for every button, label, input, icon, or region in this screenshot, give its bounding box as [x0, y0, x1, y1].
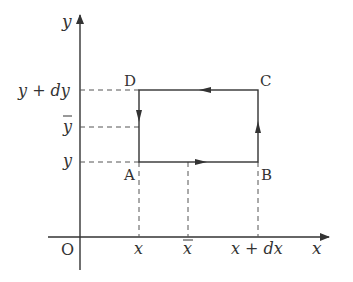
diagram-canvas: y x O D C A B y + dy y y x x x + dx: [0, 0, 353, 282]
vertex-label-a: A: [123, 166, 135, 184]
x-tick-x: x: [134, 239, 143, 258]
vertex-label-c: C: [260, 72, 271, 90]
x-axis-label: x: [312, 238, 322, 258]
vertical-guides: [139, 162, 258, 237]
arrow-up-icon: [255, 121, 261, 133]
x-tick-x-bar: x: [183, 239, 192, 258]
vertex-label-b: B: [261, 166, 272, 184]
vertex-label-d: D: [124, 72, 136, 90]
arrow-right-icon: [195, 159, 207, 165]
y-axis-label: y: [61, 11, 72, 31]
arrow-left-icon: [199, 87, 211, 93]
horizontal-guides: [80, 90, 139, 162]
rectangle-abcd: [139, 90, 258, 162]
y-tick-y-plus-dy: y + dy: [17, 81, 71, 100]
x-tick-x-plus-dx: x + dx: [231, 239, 283, 258]
origin-label: O: [61, 240, 74, 259]
arrow-down-icon: [136, 110, 142, 122]
y-tick-y-bar: y: [62, 117, 73, 136]
y-tick-y: y: [62, 151, 73, 170]
